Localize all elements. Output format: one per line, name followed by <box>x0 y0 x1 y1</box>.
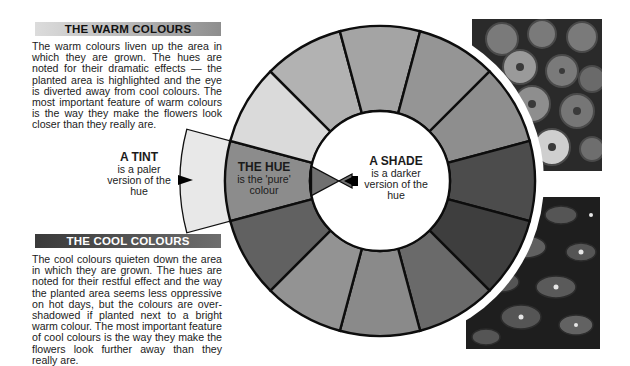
shade-label: A SHADE is a darker version of the hue <box>362 155 430 201</box>
shade-description: is a darker version of the hue <box>364 167 428 201</box>
tint-label: A TINT is a paler version of the hue <box>104 151 174 197</box>
hue-description: is the 'pure' colour <box>237 173 291 196</box>
tint-description: is a paler version of the hue <box>107 163 171 197</box>
shade-arrow-tail <box>352 176 358 186</box>
hue-label: THE HUE is the 'pure' colour <box>229 161 299 196</box>
